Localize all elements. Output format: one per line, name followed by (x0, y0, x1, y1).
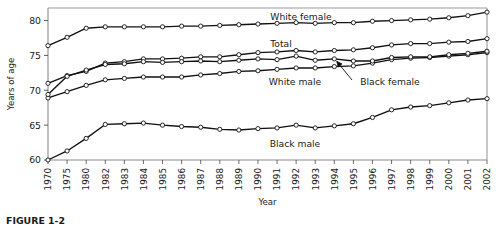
x-tick-label: 1980 (81, 168, 91, 191)
data-point (218, 71, 222, 75)
data-point (313, 50, 317, 54)
data-point (199, 55, 203, 59)
x-tick-label: 1999 (425, 168, 435, 190)
y-tick-label: 70 (29, 85, 41, 96)
series-label-black-male: Black male (270, 138, 321, 149)
data-point (103, 78, 107, 82)
data-point (275, 58, 279, 62)
series-label-total: Total (269, 38, 291, 49)
x-tick-label: 1991 (272, 168, 282, 190)
data-point (447, 16, 451, 20)
data-point (313, 58, 317, 62)
x-tick-label: 1983 (120, 168, 130, 190)
data-point (256, 22, 260, 26)
y-axis-title: Years of age (6, 58, 16, 111)
data-point (160, 123, 164, 127)
data-point (180, 124, 184, 128)
data-point (313, 66, 317, 70)
x-tick-label: 1970 (43, 168, 53, 191)
x-tick-label: 2001 (463, 168, 473, 190)
data-point (122, 122, 126, 126)
data-point (428, 55, 432, 59)
data-point (351, 64, 355, 68)
data-point (218, 127, 222, 131)
data-point (199, 59, 203, 63)
data-point (294, 48, 298, 52)
data-point (103, 62, 107, 66)
data-point (332, 21, 336, 25)
data-point (370, 115, 374, 119)
y-tick-label: 60 (29, 154, 41, 165)
data-point (466, 51, 470, 55)
data-point (389, 108, 393, 112)
data-point (370, 46, 374, 50)
data-point (294, 123, 298, 127)
series-label-black-female: Black female (360, 76, 420, 87)
series-layer (46, 10, 489, 162)
series-black-male (46, 97, 489, 163)
data-point (466, 14, 470, 18)
data-point (313, 126, 317, 130)
data-point (485, 37, 489, 41)
data-point (428, 41, 432, 45)
data-point (466, 39, 470, 43)
data-point (332, 64, 336, 68)
data-point (409, 18, 413, 22)
series-white-male (46, 51, 489, 101)
data-point (180, 24, 184, 28)
data-point (389, 18, 393, 22)
data-point (466, 98, 470, 102)
data-point (180, 60, 184, 64)
data-point (332, 48, 336, 52)
data-point (141, 60, 145, 64)
data-point (46, 158, 50, 162)
y-tick-label: 80 (29, 15, 41, 26)
data-point (294, 66, 298, 70)
x-tick-label: 1985 (158, 168, 168, 190)
data-point (103, 25, 107, 29)
data-point (370, 19, 374, 23)
x-tick-label: 1998 (406, 168, 416, 190)
plot-frame (48, 8, 487, 160)
data-point (141, 75, 145, 79)
data-point (160, 75, 164, 79)
data-point (351, 122, 355, 126)
figure-caption: FIGURE 1-2 (6, 215, 65, 226)
data-point (103, 122, 107, 126)
data-point (122, 76, 126, 80)
data-point (389, 43, 393, 47)
x-tick-label: 1989 (234, 168, 244, 190)
data-point (84, 26, 88, 30)
data-point (46, 92, 50, 96)
series-white-female (46, 10, 489, 48)
data-point (409, 105, 413, 109)
data-point (65, 90, 69, 94)
data-point (447, 101, 451, 105)
data-point (84, 83, 88, 87)
data-point (409, 55, 413, 59)
data-point (199, 125, 203, 129)
data-point (218, 60, 222, 64)
figure-container: 6065707580 19701975198019821983198419851… (0, 0, 503, 226)
data-point (485, 10, 489, 14)
data-point (141, 25, 145, 29)
data-point (332, 57, 336, 61)
data-point (409, 41, 413, 45)
data-point (46, 81, 50, 85)
x-tick-label: 1984 (139, 168, 149, 191)
data-point (141, 121, 145, 125)
y-tick-label: 75 (29, 50, 41, 61)
x-tick-label: 1975 (62, 168, 72, 190)
series-black-female (46, 49, 489, 96)
data-point (65, 74, 69, 78)
x-tick-label: 1982 (101, 168, 111, 190)
data-point (485, 97, 489, 101)
x-tick-label: 1994 (330, 168, 340, 191)
y-axis: 6065707580 (29, 15, 48, 165)
x-tick-label: 1986 (177, 168, 187, 191)
data-point (237, 128, 241, 132)
data-point (256, 51, 260, 55)
data-point (351, 59, 355, 63)
x-tick-label: 1997 (387, 168, 397, 190)
data-point (84, 136, 88, 140)
